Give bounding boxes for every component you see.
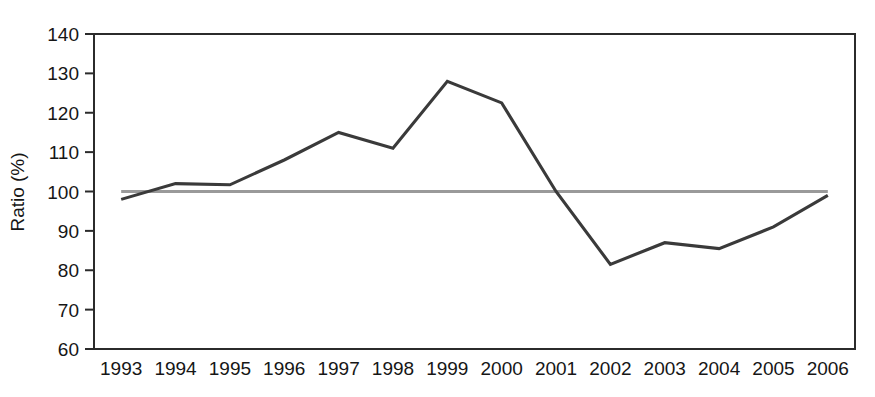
y-axis-tick-labels: 60708090100110120130140	[47, 24, 79, 360]
x-tick-label: 1996	[263, 358, 305, 379]
x-axis-tick-labels: 1993199419951996199719981999200020012002…	[100, 358, 849, 379]
y-tick-label: 90	[58, 221, 79, 242]
x-tick-label: 2000	[481, 358, 523, 379]
y-tick-label: 140	[47, 24, 79, 45]
y-axis-ticks	[85, 34, 94, 349]
x-tick-label: 2001	[535, 358, 577, 379]
y-tick-label: 70	[58, 300, 79, 321]
x-tick-label: 1998	[372, 358, 414, 379]
line-chart: 60708090100110120130140 1993199419951996…	[0, 0, 875, 397]
y-tick-label: 130	[47, 63, 79, 84]
chart-container: 60708090100110120130140 1993199419951996…	[0, 0, 875, 397]
y-axis-title: Ratio (%)	[7, 152, 28, 231]
y-tick-label: 110	[49, 142, 79, 163]
x-tick-label: 1999	[426, 358, 468, 379]
x-tick-label: 1997	[317, 358, 359, 379]
x-tick-label: 1994	[154, 358, 197, 379]
y-tick-label: 120	[47, 103, 79, 124]
y-tick-label: 60	[58, 339, 79, 360]
x-tick-label: 2006	[807, 358, 849, 379]
y-tick-label: 100	[47, 182, 79, 203]
x-tick-label: 1993	[100, 358, 142, 379]
x-tick-label: 2004	[698, 358, 741, 379]
x-tick-label: 2002	[589, 358, 631, 379]
x-tick-label: 2003	[644, 358, 686, 379]
x-tick-label: 1995	[209, 358, 251, 379]
x-tick-label: 2005	[752, 358, 794, 379]
y-tick-label: 80	[58, 260, 79, 281]
